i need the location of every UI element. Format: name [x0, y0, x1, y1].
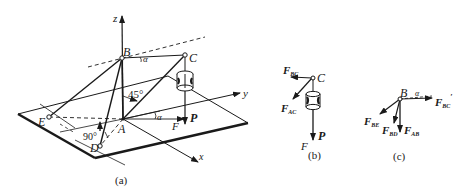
joint-a [121, 117, 124, 120]
point-c-label: C [189, 51, 198, 65]
joint-c-b [311, 76, 315, 80]
bar-ab [122, 58, 123, 119]
force-p-label-b: P [318, 129, 326, 143]
force-f-label: F [171, 120, 179, 132]
bar-ac [123, 55, 185, 119]
joints [47, 53, 187, 148]
force-fbc-arrow-b [291, 77, 312, 78]
line-a-alpha [123, 111, 160, 119]
caption-c: (c) [393, 150, 406, 163]
point-a-label: A [117, 122, 126, 136]
force-f-label-b: F [300, 140, 308, 152]
force-fab-label: FAB [403, 124, 419, 137]
point-d-label: D [89, 141, 99, 155]
bars [49, 55, 185, 146]
bar-be [49, 58, 122, 117]
joint-c [183, 53, 187, 57]
caption-a: (a) [115, 174, 128, 187]
joint-e [47, 115, 51, 119]
force-fbe-label: FBE [363, 115, 379, 128]
force-fbd-label: FBD [381, 124, 398, 137]
caption-b: (b) [308, 149, 321, 162]
force-fbc-prime-label: FBC′ [434, 93, 453, 109]
point-b-label: B [123, 45, 131, 59]
figure-a: z y x [18, 12, 248, 187]
angle-alpha-label-c: α [415, 89, 420, 98]
mechanics-diagram: z y x [0, 0, 464, 194]
z-axis-label: z [112, 12, 118, 24]
angle-alpha-arc-f [155, 113, 156, 119]
pulley-b [306, 91, 320, 109]
angle-90-label: 90° [83, 131, 97, 142]
angle-45-label: 45° [128, 88, 143, 100]
force-fac-label-b: FAC [280, 102, 297, 115]
force-fbc-label-b: FBC [282, 64, 299, 77]
point-c-label-b: C [317, 71, 326, 85]
angle-alpha-arc-bc [140, 57, 141, 62]
x-axis [123, 119, 198, 162]
figure-b: C FBC FAC P F (b) [280, 64, 326, 162]
angle-alpha-bc-label: α [143, 54, 148, 64]
figure-c: B α FBC′ FBE FBD FAB (c) [363, 86, 453, 163]
y-axis-label: y [242, 87, 248, 99]
angle-alpha-f-label: α [157, 112, 162, 122]
x-axis-label: x [198, 151, 204, 162]
point-b-label-c: B [400, 86, 408, 100]
force-p-label: P [190, 111, 198, 125]
point-e-label: E [37, 115, 46, 129]
